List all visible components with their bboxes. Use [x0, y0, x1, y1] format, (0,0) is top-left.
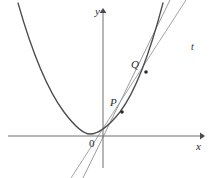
point-q-marker — [144, 70, 148, 74]
x-axis-label: x — [196, 141, 201, 152]
point-q-label: Q — [131, 59, 139, 70]
figure-canvas — [0, 0, 213, 178]
origin-label: 0 — [89, 138, 95, 149]
y-axis-label: y — [95, 6, 100, 17]
point-p-marker — [120, 110, 124, 114]
x-axis-arrowhead — [200, 133, 205, 140]
secant-line-t — [71, 0, 186, 178]
point-p-label: P — [110, 97, 117, 108]
y-axis-arrowhead — [100, 8, 107, 13]
math-figure: y x 0 P Q t — [0, 0, 213, 178]
secant-line-label: t — [191, 42, 194, 52]
